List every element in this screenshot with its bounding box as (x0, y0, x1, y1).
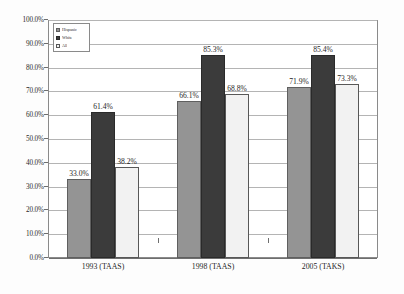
bar-group: 33.0%61.4%38.2% (67, 20, 139, 258)
bar-hispanic[interactable]: 33.0% (67, 179, 91, 258)
bar-white[interactable]: 61.4% (91, 112, 115, 258)
y-axis-tick-label: 50.0% (0, 135, 44, 143)
y-axis-tick-label: 60.0% (0, 111, 44, 119)
bar-hispanic[interactable]: 66.1% (177, 101, 201, 258)
legend-label: White (62, 35, 72, 40)
y-axis-tick-label: 0.0% (0, 254, 44, 262)
bar-value-label: 33.0% (69, 169, 89, 178)
bar-chart-figure: 100.0%90.0%80.0%70.0%60.0%50.0%40.0%30.0… (0, 0, 404, 294)
bar-all[interactable]: 68.8% (225, 94, 249, 258)
chart-legend: HispanicWhiteAll (53, 23, 90, 52)
bar-all[interactable]: 73.3% (335, 84, 359, 258)
y-axis-tick-label: 80.0% (0, 64, 44, 72)
legend-item[interactable]: All (56, 42, 87, 49)
bar-white[interactable]: 85.4% (311, 55, 335, 258)
legend-item[interactable]: White (56, 34, 87, 41)
x-axis-category-label: 2005 (TAKS) (268, 262, 378, 272)
bar-groups: 33.0%61.4%38.2%66.1%85.3%68.8%71.9%85.4%… (48, 20, 378, 258)
x-axis-category-label: 1993 (TAAS) (48, 262, 158, 272)
bar-value-label: 73.3% (337, 74, 357, 83)
bar-value-label: 68.8% (227, 84, 247, 93)
bar-value-label: 61.4% (93, 102, 113, 111)
y-axis-tick-label: 20.0% (0, 206, 44, 214)
bar-value-label: 66.1% (179, 91, 199, 100)
x-axis-separator (268, 238, 269, 243)
bar-all[interactable]: 38.2% (115, 167, 139, 258)
y-axis-tick-label: 30.0% (0, 183, 44, 191)
y-axis-tick-label: 100.0% (0, 16, 44, 24)
bar-value-label: 71.9% (289, 77, 309, 86)
y-axis-tick-label: 70.0% (0, 87, 44, 95)
legend-swatch-all-icon (56, 44, 60, 48)
bar-value-label: 85.3% (203, 45, 223, 54)
gridline (49, 258, 377, 259)
bar-hispanic[interactable]: 71.9% (287, 87, 311, 258)
legend-swatch-hispanic-icon (56, 28, 60, 32)
legend-label: Hispanic (62, 27, 77, 32)
bar-value-label: 85.4% (313, 45, 333, 54)
bar-white[interactable]: 85.3% (201, 55, 225, 258)
legend-item[interactable]: Hispanic (56, 26, 87, 33)
bar-group: 71.9%85.4%73.3% (287, 20, 359, 258)
bar-value-label: 38.2% (117, 157, 137, 166)
y-axis-tick-label: 90.0% (0, 40, 44, 48)
bar-group: 66.1%85.3%68.8% (177, 20, 249, 258)
y-axis-tick-label: 40.0% (0, 159, 44, 167)
legend-label: All (62, 43, 67, 48)
y-axis-tick-label: 10.0% (0, 230, 44, 238)
x-axis-separator (158, 238, 159, 243)
x-axis-category-label: 1998 (TAAS) (158, 262, 268, 272)
legend-swatch-white-icon (56, 36, 60, 40)
